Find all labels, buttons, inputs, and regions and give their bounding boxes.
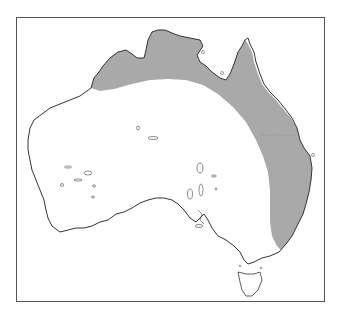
inland-lakes — [61, 126, 218, 227]
tasmania-outline — [238, 272, 262, 296]
australia-map — [0, 0, 339, 316]
